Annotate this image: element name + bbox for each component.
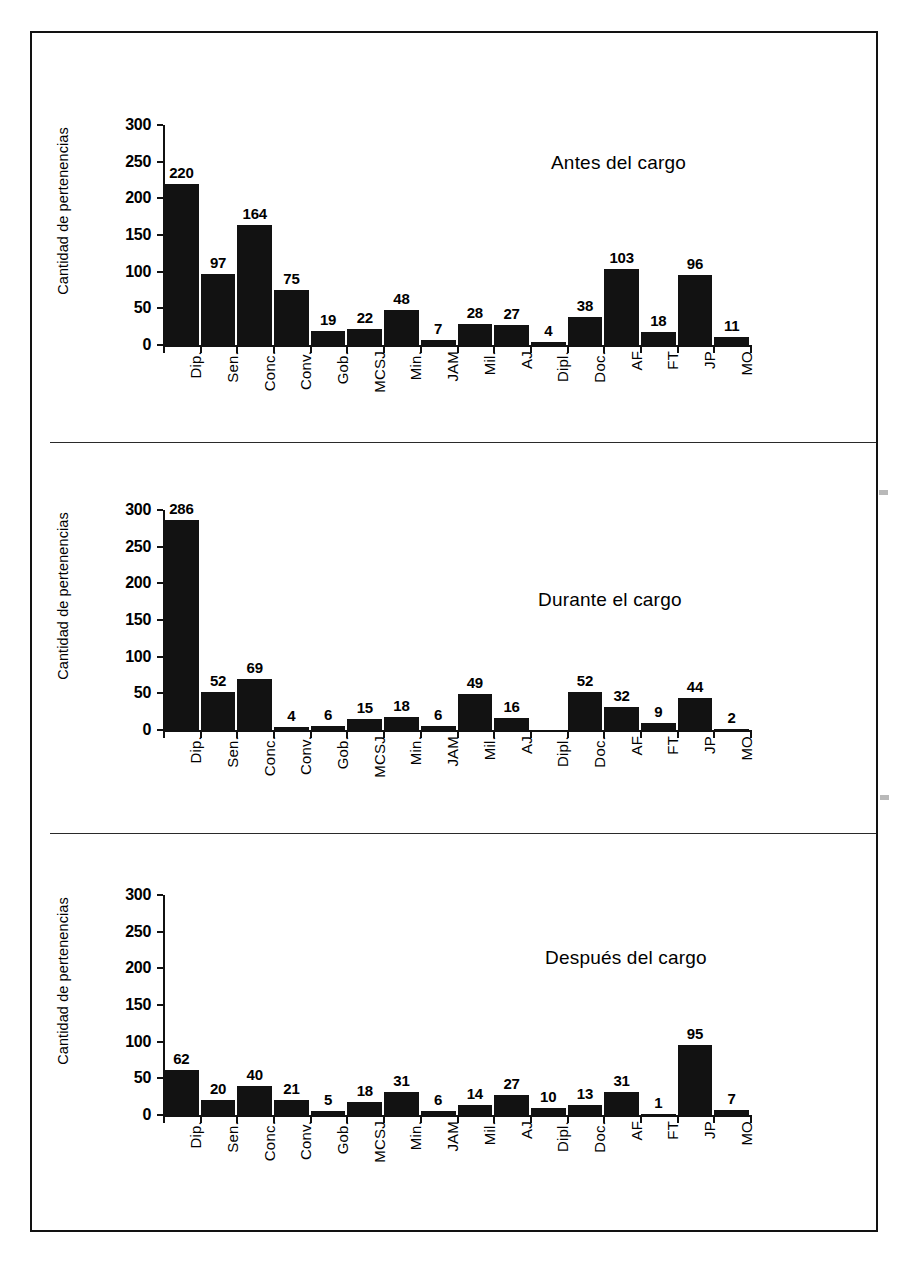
bar xyxy=(201,692,236,730)
bar-group: 5 xyxy=(310,895,347,1115)
bar-value-label: 18 xyxy=(650,313,666,328)
x-tick-label: Conv. xyxy=(297,736,314,775)
bar-value-label: 95 xyxy=(687,1026,703,1041)
panel-separator-2 xyxy=(50,833,876,834)
bar xyxy=(421,726,456,730)
panel-separator-1 xyxy=(50,442,876,443)
x-tick-label: AJ xyxy=(518,351,535,369)
x-tick-label: Dip. xyxy=(187,351,204,378)
bar-series-antes: 220971647519224872827438103189611 xyxy=(163,125,750,345)
y-tick-label: 200 xyxy=(89,575,151,591)
bar-group: 27 xyxy=(493,895,530,1115)
bar-group: 4 xyxy=(273,510,310,730)
bar-group: 44 xyxy=(677,510,714,730)
y-axis-title: Cantidad de pertenencias xyxy=(55,106,71,316)
bar xyxy=(641,723,676,730)
y-tick-label: 50 xyxy=(89,300,151,316)
bar xyxy=(274,727,309,730)
bar-group: 220 xyxy=(163,125,200,345)
x-tick-label: FT xyxy=(664,1121,681,1140)
bar xyxy=(164,1070,199,1115)
bar xyxy=(421,1111,456,1115)
plot-area-antes: 050100150200250300 220971647519224872827… xyxy=(163,125,750,345)
bar-value-label: 18 xyxy=(357,1083,373,1098)
x-tick-label: Conc. xyxy=(261,736,278,776)
x-tick-label: Gob. xyxy=(334,351,351,384)
bar-value-label: 4 xyxy=(544,323,552,338)
y-tick-label: 200 xyxy=(89,190,151,206)
bar-value-label: 14 xyxy=(467,1086,483,1101)
x-tick-label: Dipl. xyxy=(554,736,571,767)
x-tick-label: JAM xyxy=(444,736,461,767)
bar-group: 95 xyxy=(677,895,714,1115)
bar-group: 2 xyxy=(713,510,750,730)
x-tick-label: Conv. xyxy=(297,351,314,390)
bar xyxy=(311,1111,346,1115)
bar-value-label: 52 xyxy=(577,673,593,688)
bar-group: 19 xyxy=(310,125,347,345)
bar xyxy=(494,325,529,345)
bar-value-label: 16 xyxy=(503,699,519,714)
x-tick-label: Dipl. xyxy=(554,1121,571,1152)
bar-value-label: 38 xyxy=(577,298,593,313)
y-tick-label: 200 xyxy=(89,960,151,976)
x-tick-label: MCSJ xyxy=(371,1121,388,1163)
x-tick-label: Sen. xyxy=(224,351,241,383)
bar-value-label: 21 xyxy=(283,1081,299,1096)
bar-value-label: 44 xyxy=(687,679,703,694)
bar xyxy=(237,1086,272,1115)
y-tick-label: 300 xyxy=(89,887,151,903)
bar xyxy=(568,1105,603,1115)
bar-value-label: 31 xyxy=(393,1073,409,1088)
bar-group: 14 xyxy=(457,895,494,1115)
bar xyxy=(347,1102,382,1115)
bar-group: 31 xyxy=(383,895,420,1115)
x-tick-label: Min. xyxy=(407,736,424,765)
bar-group: 32 xyxy=(603,510,640,730)
chart-panel-despues: Cantidad de pertenencias Después del car… xyxy=(0,855,907,1185)
bar xyxy=(164,184,199,345)
bar-group: 15 xyxy=(346,510,383,730)
x-tick-label: Sen. xyxy=(224,736,241,768)
bar-value-label: 20 xyxy=(210,1081,226,1096)
x-tick-labels-durante: Dip.Sen.Conc.Conv.Gob.MCSJMin.JAMMil.AJD… xyxy=(163,736,750,808)
bar-group: 6 xyxy=(420,895,457,1115)
x-tick-label: Gob. xyxy=(334,736,351,769)
x-tick-label: Sen. xyxy=(224,1121,241,1153)
bar-value-label: 11 xyxy=(724,318,739,333)
bar-value-label: 97 xyxy=(210,255,226,270)
x-tick-label: Doc. xyxy=(591,1121,608,1153)
x-tick-label: Dipl. xyxy=(554,351,571,382)
bar-series-durante: 28652694615186491652329442 xyxy=(163,510,750,730)
bar xyxy=(458,1105,493,1115)
bar xyxy=(568,692,603,730)
x-tick-labels-antes: Dip.Sen.Conc.Conv.Gob.MCSJMin.JAMMil.AJD… xyxy=(163,351,750,423)
x-tick-label: MO xyxy=(738,736,755,761)
bar-value-label: 2 xyxy=(728,710,736,725)
bar-group: 49 xyxy=(457,510,494,730)
bar xyxy=(641,1114,676,1115)
bar xyxy=(678,1045,713,1115)
bar xyxy=(641,332,676,345)
bar-group: 11 xyxy=(713,125,750,345)
bar-value-label: 69 xyxy=(247,660,263,675)
bar-value-label: 31 xyxy=(613,1073,629,1088)
y-tick-label: 0 xyxy=(89,1107,151,1123)
x-tick-label: MO xyxy=(738,351,755,376)
y-tick-label: 300 xyxy=(89,117,151,133)
bar-group: 22 xyxy=(346,125,383,345)
x-tick-label: Min. xyxy=(407,351,424,380)
x-tick-label: MCSJ xyxy=(371,351,388,393)
bar-value-label: 7 xyxy=(728,1091,736,1106)
y-tick-label: 100 xyxy=(89,1034,151,1050)
y-tick-label: 0 xyxy=(89,337,151,353)
chart-panel-antes: Cantidad de pertenencias Antes del cargo… xyxy=(0,85,907,415)
bar-group: 52 xyxy=(567,510,604,730)
bar-group: 1 xyxy=(640,895,677,1115)
bar-group: 62 xyxy=(163,895,200,1115)
bar-group: 40 xyxy=(236,895,273,1115)
bar-value-label: 40 xyxy=(247,1067,263,1082)
x-tick-label: JAM xyxy=(444,1121,461,1152)
bar xyxy=(568,317,603,345)
bar xyxy=(604,1092,639,1115)
